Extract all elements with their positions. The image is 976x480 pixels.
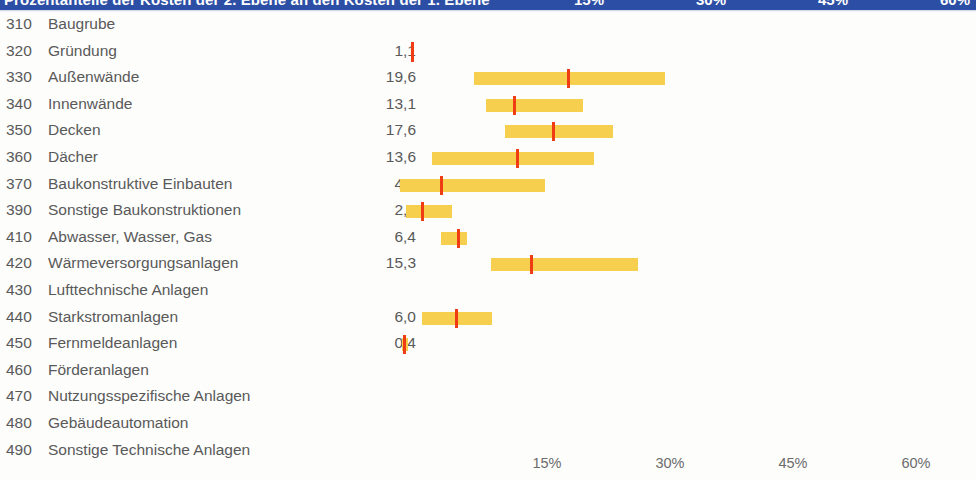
- cost-share-chart: 310Baugrube320Gründung1,1330Außenwände19…: [0, 12, 976, 480]
- table-row: 350Decken17,6: [0, 118, 976, 145]
- row-label: Innenwände: [48, 95, 132, 113]
- range-bar: [400, 179, 545, 192]
- row-code: 410: [6, 228, 42, 246]
- header-tick-labels: 15%30%45%60%: [482, 0, 970, 8]
- row-value: 6,0: [330, 308, 416, 326]
- row-label: Sonstige Baukonstruktionen: [48, 201, 241, 219]
- row-code: 430: [6, 281, 42, 299]
- header-tick-30: 30%: [604, 0, 726, 8]
- row-value: 1,1: [330, 42, 416, 60]
- row-value: 15,3: [330, 254, 416, 272]
- range-bar: [432, 152, 594, 165]
- table-row: 410Abwasser, Wasser, Gas6,4: [0, 225, 976, 252]
- x-axis: 15%30%45%60%: [0, 455, 976, 477]
- row-code: 370: [6, 175, 42, 193]
- row-label: Dächer: [48, 148, 98, 166]
- axis-tick-label: 45%: [778, 455, 807, 471]
- range-bar: [406, 205, 452, 218]
- row-label: Fernmeldeanlagen: [48, 334, 177, 352]
- range-bar: [486, 99, 583, 112]
- row-code: 470: [6, 387, 42, 405]
- median-marker: [440, 176, 443, 195]
- row-value: 17,6: [330, 121, 416, 139]
- table-row: 420Wärmeversorgungsanlagen15,3: [0, 251, 976, 278]
- row-label: Nutzungsspezifische Anlagen: [48, 387, 251, 405]
- table-row: 450Fernmeldeanlagen0,4: [0, 331, 976, 358]
- table-row: 390Sonstige Baukonstruktionen2,2: [0, 198, 976, 225]
- median-marker: [457, 229, 460, 248]
- row-code: 440: [6, 308, 42, 326]
- table-row: 330Außenwände19,6: [0, 65, 976, 92]
- row-code: 330: [6, 68, 42, 86]
- row-code: 390: [6, 201, 42, 219]
- row-label: Lufttechnische Anlagen: [48, 281, 208, 299]
- range-bar: [441, 232, 467, 245]
- row-label: Wärmeversorgungsanlagen: [48, 254, 238, 272]
- median-marker: [403, 335, 406, 354]
- row-code: 320: [6, 42, 42, 60]
- chart-title: Prozentanteile der Kosten der 2. Ebene a…: [4, 0, 490, 8]
- row-label: Baugrube: [48, 15, 115, 33]
- header-tick-60: 60%: [848, 0, 970, 8]
- row-value: 2,2: [330, 201, 416, 219]
- axis-tick-label: 30%: [655, 455, 684, 471]
- table-row: 440Starkstromanlagen6,0: [0, 305, 976, 332]
- table-row: 470Nutzungsspezifische Anlagen: [0, 384, 976, 411]
- row-label: Förderanlagen: [48, 361, 149, 379]
- row-value: 19,6: [330, 68, 416, 86]
- range-bar: [491, 258, 638, 271]
- axis-tick-label: 60%: [901, 455, 930, 471]
- row-label: Gründung: [48, 42, 117, 60]
- median-marker: [421, 202, 424, 221]
- row-label: Abwasser, Wasser, Gas: [48, 228, 212, 246]
- row-code: 450: [6, 334, 42, 352]
- row-label: Starkstromanlagen: [48, 308, 178, 326]
- table-row: 480Gebäudeautomation: [0, 411, 976, 438]
- range-bar: [505, 125, 613, 138]
- row-label: Außenwände: [48, 68, 139, 86]
- row-code: 360: [6, 148, 42, 166]
- row-code: 340: [6, 95, 42, 113]
- median-marker: [516, 149, 519, 168]
- header-tick-15: 15%: [482, 0, 604, 8]
- median-marker: [455, 309, 458, 328]
- median-marker: [552, 122, 555, 141]
- table-row: 430Lufttechnische Anlagen: [0, 278, 976, 305]
- row-code: 350: [6, 121, 42, 139]
- chart-title-bar: Prozentanteile der Kosten der 2. Ebene a…: [0, 0, 976, 10]
- row-value: 13,6: [330, 148, 416, 166]
- row-code: 480: [6, 414, 42, 432]
- table-row: 370Baukonstruktive Einbauten4,6: [0, 172, 976, 199]
- row-code: 420: [6, 254, 42, 272]
- row-label: Gebäudeautomation: [48, 414, 188, 432]
- median-marker: [411, 42, 414, 62]
- table-row: 360Dächer13,6: [0, 145, 976, 172]
- row-value: 6,4: [330, 228, 416, 246]
- table-row: 460Förderanlagen: [0, 358, 976, 385]
- table-row: 320Gründung1,1: [0, 39, 976, 66]
- median-marker: [530, 255, 533, 274]
- table-row: 340Innenwände13,1: [0, 92, 976, 119]
- median-marker: [513, 96, 516, 115]
- row-label: Baukonstruktive Einbauten: [48, 175, 232, 193]
- table-row: 310Baugrube: [0, 12, 976, 39]
- row-code: 460: [6, 361, 42, 379]
- median-marker: [567, 69, 570, 88]
- row-value: 13,1: [330, 95, 416, 113]
- row-label: Decken: [48, 121, 101, 139]
- row-code: 310: [6, 15, 42, 33]
- header-tick-45: 45%: [726, 0, 848, 8]
- axis-tick-label: 15%: [532, 455, 561, 471]
